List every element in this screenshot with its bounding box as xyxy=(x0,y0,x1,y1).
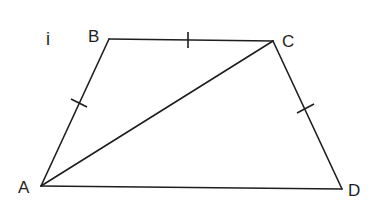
segment-cd xyxy=(273,41,342,189)
segment-ad xyxy=(41,186,342,189)
vertex-label-c: C xyxy=(282,32,294,51)
part-label: i xyxy=(46,29,50,49)
geometry-figure: i A B C D xyxy=(0,0,376,204)
vertex-label-b: B xyxy=(88,27,99,46)
diagonal-ac xyxy=(41,41,273,186)
segment-bc xyxy=(109,39,273,41)
vertex-label-a: A xyxy=(18,178,30,197)
tick-mark-ab xyxy=(71,99,87,107)
vertex-label-d: D xyxy=(348,181,360,200)
